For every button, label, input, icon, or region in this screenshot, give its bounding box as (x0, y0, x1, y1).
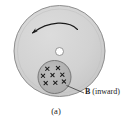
figure-caption: (a) (0, 106, 112, 116)
axle-hole (56, 48, 64, 56)
figure-disk-in-magnetic-field: B (inward) (a) (0, 0, 140, 123)
figure-graphic (0, 0, 140, 123)
field-label-text: (inward) (90, 87, 120, 96)
field-label: B (inward) (85, 87, 120, 97)
